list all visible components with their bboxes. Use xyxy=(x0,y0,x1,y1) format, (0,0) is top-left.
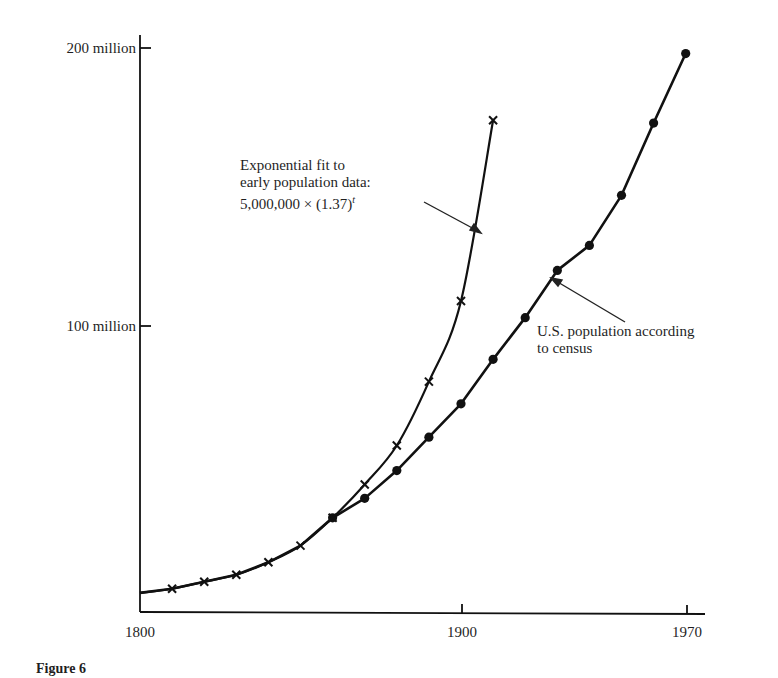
census-point xyxy=(456,399,465,408)
exp-x-marker xyxy=(393,442,401,450)
exp-formula-exponent: t xyxy=(352,194,355,205)
census-point xyxy=(360,494,369,503)
census-annotation-line1: U.S. population according xyxy=(537,323,694,340)
census-point xyxy=(553,266,562,275)
census-series xyxy=(140,49,690,593)
exp-formula-base: 5,000,000 × (1.37) xyxy=(240,196,352,212)
census-point xyxy=(681,49,690,58)
census-point xyxy=(424,433,433,442)
x-tick-label-1800: 1800 xyxy=(110,623,170,641)
census-point xyxy=(585,241,594,250)
exp-fit-annotation: Exponential fit to early population data… xyxy=(240,157,371,213)
exp-annotation-line2: early population data: xyxy=(240,174,371,191)
x-tick-label-1900: 1900 xyxy=(432,623,492,641)
exp-arrow-line xyxy=(424,202,476,230)
figure-caption: Figure 6 xyxy=(36,660,86,678)
census-point xyxy=(649,118,658,127)
census-arrow-head xyxy=(551,278,562,286)
x-tick-label-1970: 1970 xyxy=(657,623,717,641)
census-point xyxy=(392,466,401,475)
y-tick-label-200: 200 million xyxy=(6,39,136,57)
exp-annotation-line1: Exponential fit to xyxy=(240,157,371,174)
census-point xyxy=(617,191,626,200)
annotation-arrows xyxy=(424,202,625,322)
census-point xyxy=(489,355,498,364)
x-axis xyxy=(140,612,705,614)
exp-arrow-head xyxy=(470,224,481,233)
y-tick-label-100: 100 million xyxy=(6,317,136,335)
exp-x-marker xyxy=(425,378,433,386)
census-arrow-line xyxy=(556,281,625,322)
exp-x-marker xyxy=(361,480,369,488)
exp-annotation-formula: 5,000,000 × (1.37)t xyxy=(240,191,371,213)
census-point xyxy=(521,313,530,322)
census-annotation: U.S. population according to census xyxy=(537,323,694,357)
census-annotation-line2: to census xyxy=(537,340,694,357)
